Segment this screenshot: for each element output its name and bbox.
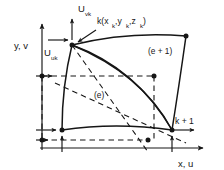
node-dot-top-right xyxy=(184,34,189,39)
edge-top xyxy=(72,35,186,45)
finite-element-diagram: y, v x, u U vk U uk k(x k ,y k ,z k ) k … xyxy=(0,0,224,170)
diagram-canvas: y, v x, u U vk U uk k(x k ,y k ,z k ) k … xyxy=(0,0,224,170)
text-labels: y, v x, u U vk U uk k(x k ,y k ,z k ) k … xyxy=(14,3,194,169)
displacement-v-subscript: vk xyxy=(85,10,92,17)
node-k-sep-z: ,z xyxy=(129,16,136,26)
edge-bottom xyxy=(62,126,172,130)
node-k-sep-y: ,y xyxy=(115,16,122,26)
element-e-plus-1-label: (e + 1) xyxy=(148,46,172,56)
edge-left xyxy=(62,45,72,130)
dashed-diagonal-a xyxy=(55,83,186,143)
node-dot-k xyxy=(70,43,75,48)
projection-dot-lower xyxy=(146,138,151,143)
node-k-close-paren: ) xyxy=(143,16,146,26)
y-axis-label: y, v xyxy=(14,40,28,51)
displacement-v-label: U xyxy=(78,3,85,14)
element-e-label: (e) xyxy=(94,90,104,100)
node-k-label: k(x xyxy=(97,16,109,26)
x-axis-label: x, u xyxy=(178,158,193,169)
diagonal-curve-pair xyxy=(72,45,172,130)
node-dot-bottom-left xyxy=(60,128,65,133)
displacement-u-label: U xyxy=(44,47,51,58)
diagonal-curve-inner xyxy=(72,45,172,130)
dashed-diagonal-b xyxy=(72,45,148,152)
node-k-plus-1-label: k + 1 xyxy=(175,116,194,126)
displacement-u-subscript: uk xyxy=(51,54,58,61)
projection-dot-upper xyxy=(152,74,157,79)
diagonal-curve-outer xyxy=(72,45,172,130)
